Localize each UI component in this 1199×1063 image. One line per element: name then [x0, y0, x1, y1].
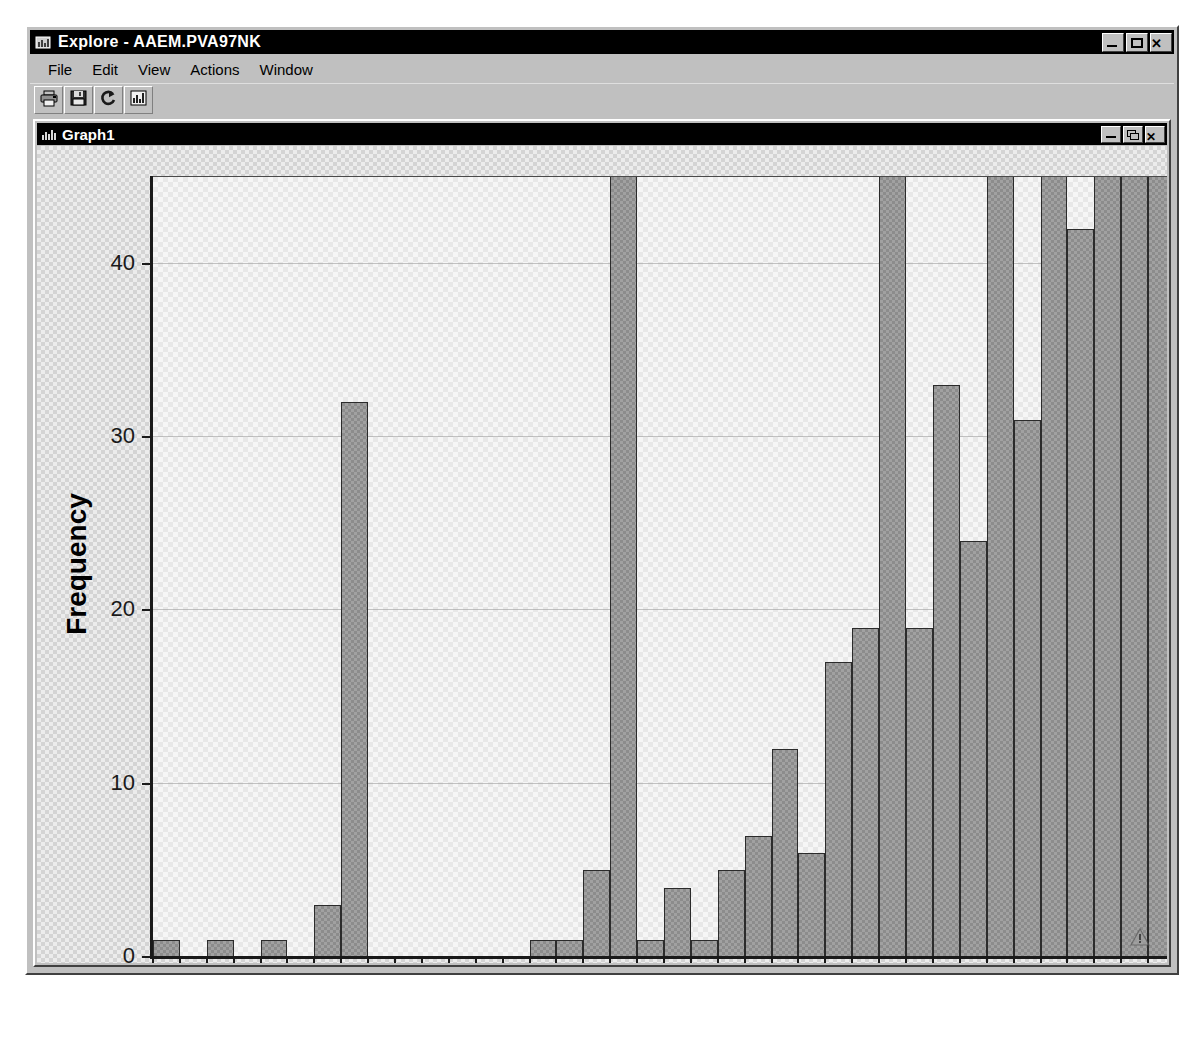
x-axis-tick — [1147, 959, 1149, 963]
bar-chart-icon — [41, 127, 57, 141]
x-axis-tick — [152, 959, 154, 963]
y-axis-tick — [142, 436, 151, 438]
graph-canvas: 0102030400246810121416182022242628303234… — [37, 146, 1167, 963]
bar-chart-icon — [129, 89, 148, 111]
histogram-bar[interactable] — [530, 940, 557, 957]
toolbar — [30, 83, 1174, 116]
mdi-restore-button[interactable] — [1123, 126, 1143, 143]
histogram-bar[interactable] — [772, 749, 799, 957]
x-axis-tick — [448, 959, 450, 963]
histogram-bar[interactable] — [637, 940, 664, 957]
mdi-minimize-button[interactable] — [1101, 126, 1121, 143]
menu-file[interactable]: File — [38, 59, 82, 80]
x-axis-tick — [367, 959, 369, 963]
menu-actions[interactable]: Actions — [180, 59, 249, 80]
histogram-bar[interactable] — [1041, 176, 1068, 957]
x-axis-tick — [797, 959, 799, 963]
histogram-bar[interactable] — [261, 940, 288, 957]
histogram-bar[interactable] — [583, 870, 610, 957]
x-axis-tick — [959, 959, 961, 963]
refresh-button[interactable] — [94, 86, 123, 114]
x-axis-tick — [932, 959, 934, 963]
y-axis-tick-label: 0 — [77, 943, 135, 963]
x-axis-tick — [502, 959, 504, 963]
menu-window[interactable]: Window — [249, 59, 322, 80]
histogram-bar[interactable] — [153, 940, 180, 957]
refresh-icon — [99, 89, 118, 111]
histogram-bar[interactable] — [1094, 176, 1121, 957]
window-titlebar: Explore - AAEM.PVA97NK ✕ — [30, 30, 1174, 54]
y-axis-tick — [142, 783, 151, 785]
x-axis-tick — [179, 959, 181, 963]
histogram-bar[interactable] — [852, 628, 879, 957]
x-axis-tick — [582, 959, 584, 963]
x-axis-tick — [340, 959, 342, 963]
x-axis-tick — [555, 959, 557, 963]
histogram-bar[interactable] — [556, 940, 583, 957]
x-axis-tick — [905, 959, 907, 963]
x-axis-tick — [609, 959, 611, 963]
mdi-close-button[interactable]: ✕ — [1145, 126, 1165, 143]
graph-window: Graph1 ✕ 0102030400246810121416182022242… — [33, 119, 1171, 967]
x-axis-tick — [690, 959, 692, 963]
menu-edit[interactable]: Edit — [82, 59, 128, 80]
x-axis-tick — [233, 959, 235, 963]
x-axis-tick — [636, 959, 638, 963]
print-button[interactable] — [34, 86, 63, 114]
histogram-bar[interactable] — [960, 541, 987, 957]
histogram-bar[interactable] — [314, 905, 341, 957]
y-axis-tick-label: 40 — [77, 250, 135, 276]
x-axis-tick — [878, 959, 880, 963]
x-axis-tick — [1093, 959, 1095, 963]
x-axis-tick — [1040, 959, 1042, 963]
y-axis-tick-label: 10 — [77, 770, 135, 796]
graph-window-title: Graph1 — [62, 126, 115, 143]
close-button[interactable]: ✕ — [1150, 33, 1172, 52]
chart-button[interactable] — [124, 86, 153, 114]
x-axis-tick — [717, 959, 719, 963]
histogram-bar[interactable] — [1067, 229, 1094, 957]
x-axis-tick — [313, 959, 315, 963]
maximize-button[interactable] — [1126, 33, 1148, 52]
floppy-disk-icon — [69, 89, 88, 111]
x-axis-tick — [421, 959, 423, 963]
histogram-bar[interactable] — [664, 888, 691, 957]
x-axis-tick — [206, 959, 208, 963]
y-axis-tick — [142, 609, 151, 611]
screenshot-root: Explore - AAEM.PVA97NK ✕ File Edit View … — [0, 0, 1199, 1063]
explore-icon — [34, 34, 52, 50]
y-axis-tick — [142, 956, 151, 958]
y-axis-tick-label: 30 — [77, 423, 135, 449]
x-axis-tick — [1013, 959, 1015, 963]
histogram-bar[interactable] — [691, 940, 718, 957]
y-axis-line — [150, 176, 153, 959]
x-axis-tick — [744, 959, 746, 963]
printer-icon — [39, 89, 59, 111]
histogram-bar[interactable] — [906, 628, 933, 957]
menu-view[interactable]: View — [128, 59, 180, 80]
minimize-button[interactable] — [1102, 33, 1124, 52]
warning-triangle-icon[interactable] — [1129, 927, 1151, 947]
histogram-bar[interactable] — [745, 836, 772, 957]
histogram-bar[interactable] — [610, 176, 637, 957]
histogram-bar[interactable] — [1148, 176, 1167, 957]
histogram-bar[interactable] — [1014, 420, 1041, 957]
histogram-bar[interactable] — [987, 176, 1014, 957]
x-axis-tick — [260, 959, 262, 963]
y-axis-tick — [142, 263, 151, 265]
x-axis-tick — [824, 959, 826, 963]
x-axis-tick — [851, 959, 853, 963]
histogram-bar[interactable] — [933, 385, 960, 957]
histogram-bar[interactable] — [798, 853, 825, 957]
histogram-bar[interactable] — [207, 940, 234, 957]
histogram-bar[interactable] — [825, 662, 852, 957]
gridline — [153, 263, 1167, 264]
menubar: File Edit View Actions Window — [30, 56, 1174, 82]
histogram-bar[interactable] — [718, 870, 745, 957]
histogram-bar[interactable] — [341, 402, 368, 957]
x-axis-tick — [1120, 959, 1122, 963]
histogram-bar[interactable] — [1121, 176, 1148, 957]
save-button[interactable] — [64, 86, 93, 114]
x-axis-tick — [986, 959, 988, 963]
histogram-bar[interactable] — [879, 176, 906, 957]
